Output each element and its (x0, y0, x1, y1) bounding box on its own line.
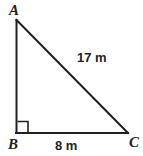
triangle-drawing (0, 0, 143, 156)
side-length-label-base: 8 m (55, 139, 77, 152)
right-angle-marker-icon (18, 122, 29, 133)
vertex-label-c: C (129, 135, 139, 150)
side-ac-hypotenuse-line (17, 20, 129, 133)
vertex-label-a: A (9, 3, 19, 18)
side-length-label-hypotenuse: 17 m (77, 51, 107, 64)
right-triangle-figure: A B C 17 m 8 m (0, 0, 143, 156)
vertex-label-b: B (8, 137, 18, 152)
